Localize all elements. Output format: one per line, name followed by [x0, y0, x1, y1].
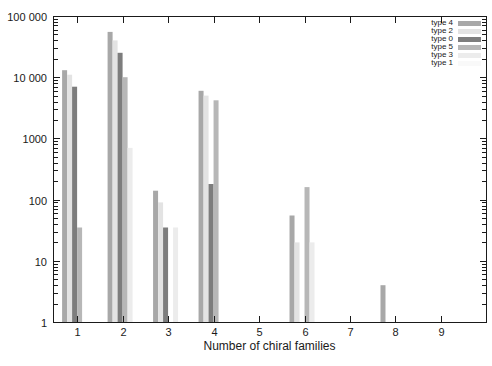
- bar-type0-x2: [118, 53, 123, 322]
- y-tick-label: 10: [35, 256, 47, 268]
- bar-type2-x3: [158, 202, 163, 322]
- bar-type2-x6: [295, 242, 300, 322]
- legend-swatch: [458, 21, 481, 26]
- bar-type5-x4: [214, 100, 219, 322]
- x-axis-title: Number of chiral families: [53, 339, 486, 353]
- x-tick-label: 3: [165, 326, 171, 338]
- bar-type4-x3: [153, 191, 158, 322]
- bar-type0-x1: [72, 87, 77, 322]
- bar-type3-x2: [128, 148, 133, 322]
- legend-swatch: [458, 29, 481, 34]
- y-tick-label: 10 000: [13, 72, 47, 84]
- bar-type4-x2: [108, 32, 113, 322]
- x-tick-label: 2: [120, 326, 126, 338]
- x-tick-label: 1: [74, 326, 80, 338]
- bar-type4-x1: [62, 70, 67, 322]
- x-tick-label: 7: [347, 326, 353, 338]
- bar-type4-x8: [380, 285, 385, 322]
- bar-type2-x4: [204, 96, 209, 322]
- bar-type4-x4: [199, 91, 204, 322]
- legend: type 4type 2type 0type 5type 3type 1: [431, 19, 481, 67]
- bar-type5-x2: [123, 77, 128, 322]
- x-tick-label: 8: [392, 326, 398, 338]
- x-tick-label: 9: [438, 326, 444, 338]
- bar-type3-x6: [310, 242, 315, 322]
- bar-type0-x3: [163, 228, 168, 323]
- legend-label: type 1: [431, 59, 453, 67]
- bar-type2-x2: [113, 40, 118, 322]
- y-tick-label: 1000: [23, 133, 47, 145]
- bar-type3-x3: [173, 228, 178, 323]
- bar-type0-x4: [209, 184, 214, 322]
- bar-chart-number-of-chiral-families: 110100100010 000100 000123456789 Number …: [0, 0, 492, 366]
- plot-area: 110100100010 000100 000123456789: [0, 0, 492, 366]
- legend-swatch: [458, 45, 481, 50]
- legend-swatch: [458, 37, 481, 42]
- x-tick-label: 5: [256, 326, 262, 338]
- bar-type5-x6: [305, 187, 310, 322]
- legend-swatch: [458, 53, 481, 58]
- bar-type2-x1: [67, 75, 72, 322]
- y-tick-label: 1: [41, 317, 47, 329]
- y-tick-label: 100: [29, 195, 47, 207]
- x-tick-label: 6: [302, 326, 308, 338]
- bar-type5-x1: [77, 228, 82, 323]
- x-tick-label: 4: [211, 326, 217, 338]
- legend-swatch: [458, 61, 481, 66]
- legend-entry-type1: type 1: [431, 59, 481, 67]
- bar-type4-x6: [290, 216, 295, 323]
- y-tick-label: 100 000: [7, 11, 47, 23]
